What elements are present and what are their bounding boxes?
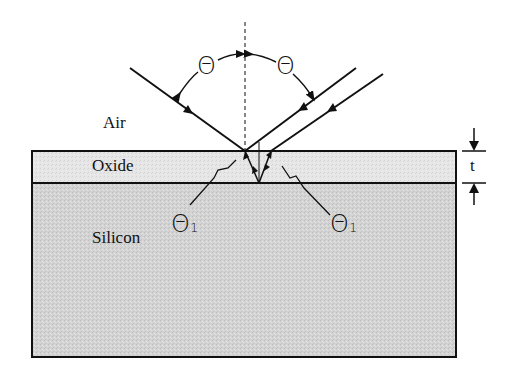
thickness-up-arrow-icon xyxy=(469,183,479,193)
silicon-label: Silicon xyxy=(92,228,140,248)
thickness-label: t xyxy=(470,156,475,176)
oxide-label: Oxide xyxy=(92,156,134,176)
reflected-arrow-icon xyxy=(298,102,308,111)
refracted-return-ray xyxy=(271,74,383,151)
thin-film-reflection-diagram xyxy=(0,0,506,379)
theta1-left-label: Θ1 xyxy=(171,210,198,238)
silicon-layer xyxy=(32,183,456,357)
theta-right-label: Θ xyxy=(276,52,295,80)
theta-right-arc-top xyxy=(249,54,276,62)
theta-left-label: Θ xyxy=(197,52,216,80)
theta-right-arc xyxy=(293,74,312,97)
air-label: Air xyxy=(103,113,126,133)
theta1-right-label: Θ1 xyxy=(330,210,357,238)
theta-left-arc-top xyxy=(218,54,241,60)
theta-left-arc xyxy=(178,72,198,96)
thickness-down-arrow-icon xyxy=(469,141,479,151)
